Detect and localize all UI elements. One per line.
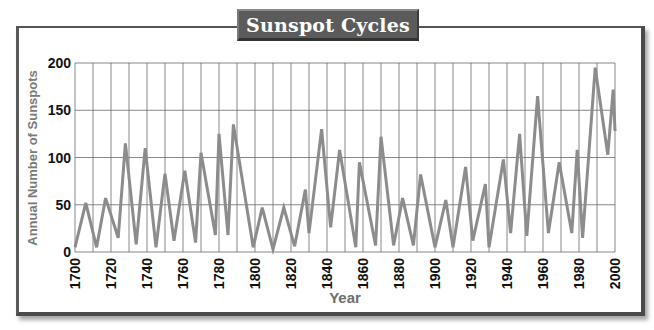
y-tick-label: 0 bbox=[63, 244, 71, 260]
x-tick-label: 2000 bbox=[607, 258, 623, 289]
x-tick-label: 1840 bbox=[319, 258, 335, 289]
x-tick-label: 1760 bbox=[175, 258, 191, 289]
x-tick-label: 1940 bbox=[499, 258, 515, 289]
y-tick-label: 200 bbox=[48, 55, 72, 71]
x-tick-label: 1920 bbox=[463, 258, 479, 289]
x-tick-label: 1980 bbox=[571, 258, 587, 289]
x-axis-label: Year bbox=[329, 289, 361, 306]
x-tick-label: 1820 bbox=[283, 258, 299, 289]
x-tick-label: 1860 bbox=[355, 258, 371, 289]
y-axis-ticks: 050100150200 bbox=[48, 55, 72, 260]
chart-title-banner: Sunspot Cycles bbox=[237, 9, 419, 41]
sunspot-line-chart: 050100150200 170017201740176017801800182… bbox=[0, 0, 654, 330]
x-tick-label: 1740 bbox=[139, 258, 155, 289]
x-tick-label: 1780 bbox=[211, 258, 227, 289]
x-tick-label: 1720 bbox=[103, 258, 119, 289]
x-tick-label: 1800 bbox=[247, 258, 263, 289]
chart-title: Sunspot Cycles bbox=[246, 14, 410, 36]
y-tick-label: 100 bbox=[48, 150, 72, 166]
y-tick-label: 50 bbox=[55, 197, 71, 213]
x-tick-label: 1900 bbox=[427, 258, 443, 289]
x-tick-label: 1960 bbox=[535, 258, 551, 289]
x-tick-label: 1880 bbox=[391, 258, 407, 289]
y-tick-label: 150 bbox=[48, 102, 72, 118]
x-axis-ticks: 1700172017401760178018001820184018601880… bbox=[67, 258, 623, 289]
x-tick-label: 1700 bbox=[67, 258, 83, 289]
y-axis-label: Annual Number of Sunspots bbox=[25, 70, 40, 246]
